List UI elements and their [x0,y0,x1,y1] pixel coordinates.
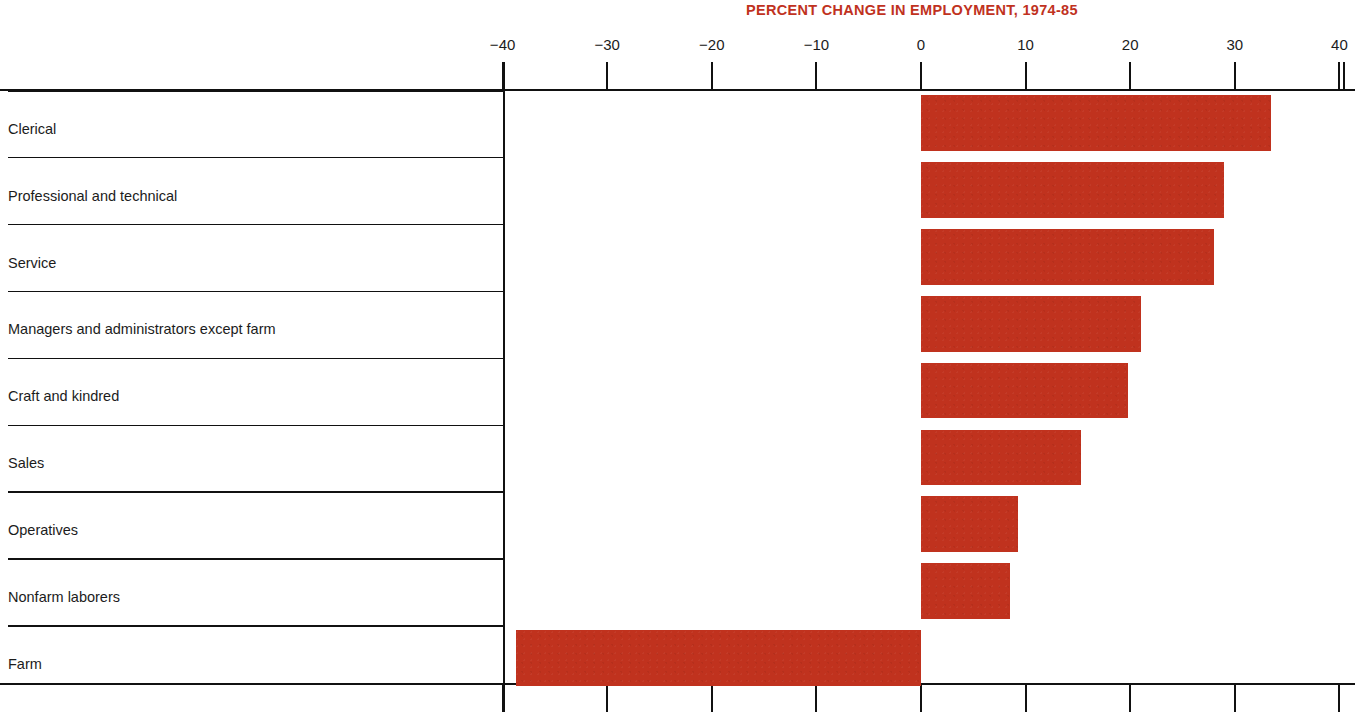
x-tick-label: −20 [699,36,724,53]
bar [921,95,1271,151]
x-tick-label: 20 [1122,36,1139,53]
x-tick-mark-bottom [815,685,817,712]
x-tick-mark-top [1234,62,1236,90]
category-label: Nonfarm laborers [8,589,120,605]
x-tick-label: 0 [917,36,925,53]
bar [921,563,1010,619]
x-tick-mark-top [711,62,713,90]
page-top-text-remnant [0,0,740,7]
plot-right-boundary [1343,62,1345,90]
chart-title: PERCENT CHANGE IN EMPLOYMENT, 1974-85 [746,2,1078,18]
category-label: Professional and technical [8,188,177,204]
x-tick-label: 40 [1331,36,1348,53]
x-tick-mark-bottom [1234,685,1236,712]
x-tick-label: 30 [1226,36,1243,53]
x-tick-mark-top [1338,62,1340,90]
category-label: Clerical [8,121,56,137]
row-separator [8,157,505,159]
row-separator [8,90,505,92]
row-separator [8,224,505,226]
x-tick-mark-top [606,62,608,90]
x-tick-mark-top [1129,62,1131,90]
x-tick-mark-top [1025,62,1027,90]
x-tick-mark-bottom [1025,685,1027,712]
x-tick-mark-bottom [502,685,504,712]
row-separator [8,558,505,560]
x-tick-mark-bottom [1338,685,1340,712]
category-label: Operatives [8,522,78,538]
x-tick-mark-top [815,62,817,90]
x-tick-mark-bottom [920,685,922,712]
row-separator [8,291,505,293]
x-tick-label: −30 [594,36,619,53]
x-tick-mark-bottom [606,685,608,712]
category-label: Sales [8,455,44,471]
bar [516,630,921,686]
row-separator [8,625,505,627]
category-label: Service [8,255,56,271]
category-label: Managers and administrators except farm [8,321,276,337]
x-tick-mark-top [502,62,504,90]
bar [921,229,1214,285]
bar [921,430,1081,486]
x-tick-mark-bottom [1129,685,1131,712]
x-tick-label: 10 [1017,36,1034,53]
plot-left-boundary [503,62,505,712]
row-separator [8,358,505,360]
row-separator [8,491,505,493]
x-tick-label: −10 [804,36,829,53]
bar [921,363,1128,419]
category-label: Farm [8,656,42,672]
x-tick-label: −40 [490,36,515,53]
category-label: Craft and kindred [8,388,119,404]
bar [921,496,1018,552]
x-tick-mark-top [920,62,922,90]
x-tick-mark-bottom [711,685,713,712]
bar [921,296,1141,352]
row-separator [8,425,505,427]
percent-change-employment-bar-chart: PERCENT CHANGE IN EMPLOYMENT, 1974-85 −4… [0,0,1355,712]
bar [921,162,1224,218]
